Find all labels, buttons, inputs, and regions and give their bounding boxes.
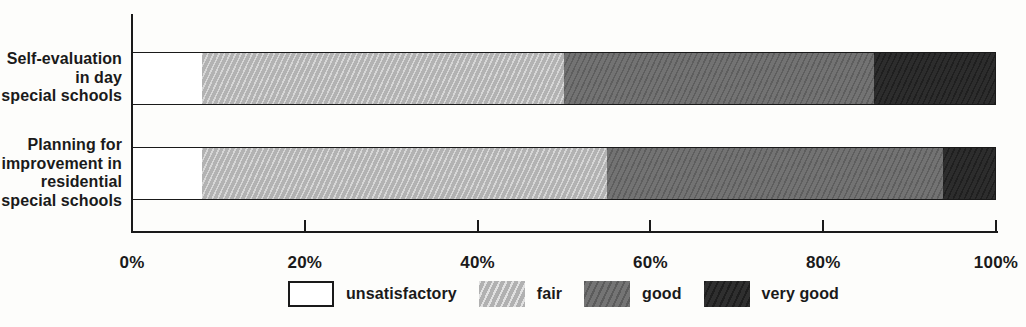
x-tick-label-40%: 40%: [460, 253, 495, 273]
legend-label: good: [642, 285, 682, 303]
x-tick-label-0%: 0%: [120, 253, 145, 273]
category-label: Planning forimprovement inresidentialspe…: [1, 136, 122, 210]
category-label-line: improvement in: [1, 155, 122, 174]
legend-swatch-good: [584, 281, 630, 307]
legend-item-good: good: [584, 281, 682, 307]
legend-item-unsatisfactory: unsatisfactory: [288, 281, 457, 307]
x-tick-60: [649, 220, 651, 231]
bar-segment-unsatisfactory: [133, 148, 202, 199]
bar-segment-good: [564, 53, 874, 104]
legend-label: unsatisfactory: [346, 285, 457, 303]
legend-swatch-very-good: [704, 281, 750, 307]
legend: unsatisfactoryfairgoodvery good: [288, 281, 839, 307]
category-label-line: special schools: [1, 87, 122, 106]
bar-segment-fair: [202, 53, 564, 104]
legend-item-fair: fair: [479, 281, 562, 307]
legend-label: very good: [762, 285, 839, 303]
x-tick-40: [477, 220, 479, 231]
x-tick-80: [822, 220, 824, 231]
category-label-line: residential: [1, 173, 122, 192]
category-label: Self-evaluationin dayspecial schools: [1, 50, 122, 106]
bar-segment-unsatisfactory: [133, 53, 202, 104]
bar-segment-good: [607, 148, 943, 199]
x-tick-label-100%: 100%: [974, 253, 1018, 273]
category-label-line: special schools: [1, 192, 122, 211]
bar-segment-very-good: [874, 53, 995, 104]
bar-self-evaluation-in-day-special: [132, 52, 996, 105]
legend-label: fair: [537, 285, 562, 303]
y-axis-line: [131, 14, 133, 233]
category-label-line: in day: [1, 69, 122, 88]
legend-item-very-good: very good: [704, 281, 839, 307]
x-tick-label-60%: 60%: [633, 253, 668, 273]
bar-segment-fair: [202, 148, 607, 199]
legend-swatch-unsatisfactory: [288, 281, 334, 307]
category-label-line: Self-evaluation: [1, 50, 122, 69]
legend-swatch-fair: [479, 281, 525, 307]
x-tick-100: [995, 220, 997, 231]
x-tick-label-20%: 20%: [287, 253, 322, 273]
bar-planning-for-improvement-in-re: [132, 147, 996, 200]
x-tick-20: [304, 220, 306, 231]
x-tick-label-80%: 80%: [806, 253, 841, 273]
stacked-bar-chart: Self-evaluationin dayspecial schoolsPlan…: [0, 0, 1026, 327]
category-label-line: Planning for: [1, 136, 122, 155]
x-axis-line: [131, 231, 998, 233]
bar-segment-very-good: [943, 148, 995, 199]
